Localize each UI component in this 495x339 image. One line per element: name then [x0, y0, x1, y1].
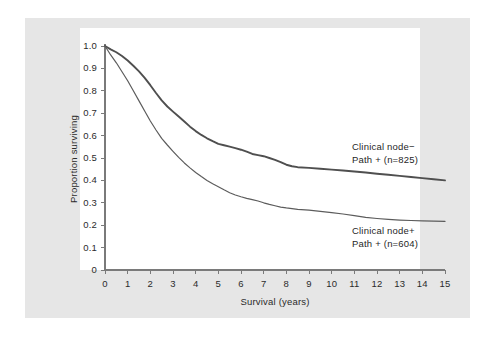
series-label-line1: Clinical node−: [352, 140, 418, 153]
y-tick-label: 0.8: [65, 85, 97, 96]
y-tick-label: 1.0: [65, 40, 97, 51]
x-tick-label: 15: [431, 278, 459, 289]
y-axis-title: Proportion surviving: [68, 115, 79, 203]
series-label-line1: Clinical node+: [352, 224, 418, 237]
y-tick-label: 0: [65, 264, 97, 275]
series-label-line2: Path + (n=825): [352, 153, 418, 166]
y-tick-label: 0.2: [65, 219, 97, 230]
survival-chart-figure: 00.10.20.30.40.50.60.70.80.91.0012345678…: [0, 0, 495, 339]
y-tick-label: 0.1: [65, 242, 97, 253]
series-label-clinical-node-positive: Clinical node+ Path + (n=604): [352, 224, 418, 250]
series-label-line2: Path + (n=604): [352, 237, 418, 250]
series-line-1: [105, 46, 445, 221]
series-lines: [105, 46, 445, 221]
x-axis-title: Survival (years): [105, 296, 445, 307]
y-tick-label: 0.9: [65, 62, 97, 73]
series-label-clinical-node-negative: Clinical node− Path + (n=825): [352, 140, 418, 166]
